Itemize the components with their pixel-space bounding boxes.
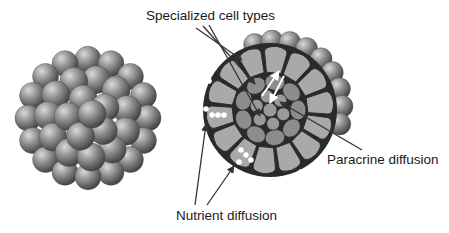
nutrient-dot bbox=[203, 106, 209, 112]
label-specialized-cell-types: Specialized cell types bbox=[146, 9, 275, 23]
spheroid-diagram bbox=[0, 0, 449, 233]
spheroid-exterior bbox=[15, 46, 161, 190]
nutrient-pointer-2 bbox=[207, 166, 234, 205]
nutrient-dot bbox=[238, 147, 244, 153]
nutrient-dot bbox=[206, 78, 212, 84]
nutrient-dot bbox=[243, 152, 249, 158]
nutrient-dot bbox=[209, 112, 215, 118]
nutrient-dot bbox=[298, 169, 304, 175]
nutrient-dot bbox=[248, 157, 254, 163]
sphere-cell bbox=[78, 100, 106, 128]
label-nutrient-diffusion: Nutrient diffusion bbox=[176, 209, 277, 223]
core-cell bbox=[267, 117, 280, 130]
nutrient-dot bbox=[221, 112, 227, 118]
nutrient-dot bbox=[215, 112, 221, 118]
core-cell bbox=[277, 108, 290, 121]
nutrient-dot bbox=[236, 159, 242, 165]
core-cell bbox=[263, 103, 277, 117]
nutrient-pointer-1 bbox=[195, 124, 206, 205]
label-paracrine-diffusion: Paracrine diffusion bbox=[327, 153, 439, 167]
